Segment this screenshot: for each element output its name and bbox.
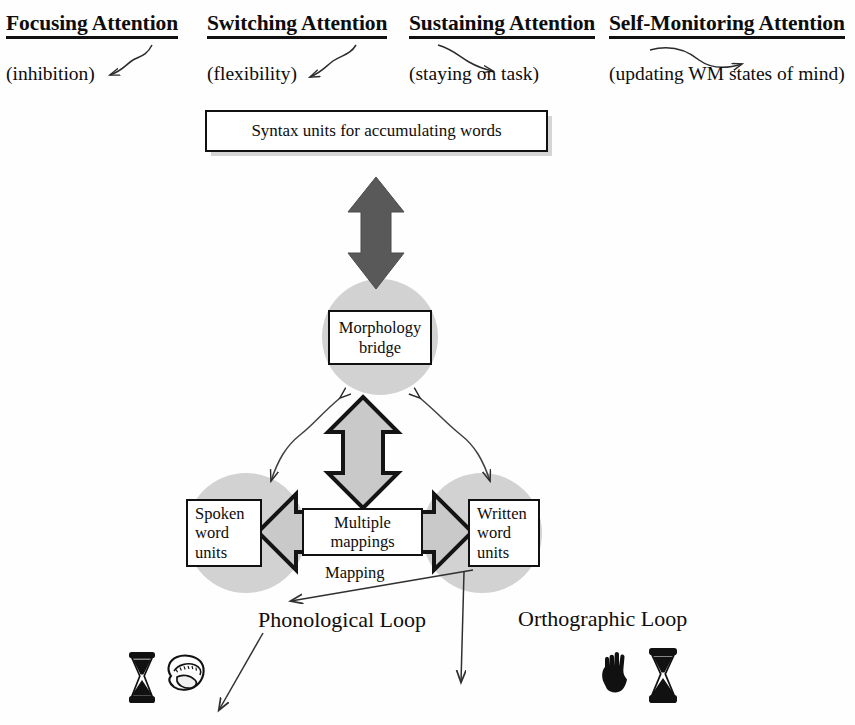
- multiple-mappings-label-line2: mappings: [330, 532, 394, 551]
- attention-subtitle-switching: (flexibility): [207, 64, 387, 84]
- attention-column-self-monitoring: Self-Monitoring Attention (updating WM s…: [609, 12, 845, 84]
- attention-subtitle-focusing: (inhibition): [6, 64, 178, 84]
- written-word-units-label-line2: word: [477, 523, 527, 542]
- spoken-word-units-label-line1: Spoken: [195, 504, 245, 523]
- attention-title-self-monitoring: Self-Monitoring Attention: [609, 12, 845, 39]
- diagram-canvas: Focusing Attention (inhibition) Switchin…: [0, 0, 855, 725]
- written-word-units-label-line3: units: [477, 543, 527, 562]
- morphology-bridge-box: Morphology bridge: [328, 310, 432, 365]
- syntax-units-label: Syntax units for accumulating words: [251, 121, 501, 141]
- written-word-units-box: Written word units: [468, 499, 540, 567]
- orthographic-loop-label: Orthographic Loop: [518, 606, 687, 632]
- attention-subtitle-self-monitoring: (updating WM states of mind): [609, 64, 845, 84]
- attention-subtitle-sustaining: (staying on task): [409, 64, 595, 84]
- morphology-mappings-double-arrow: [328, 397, 398, 508]
- multiple-mappings-box: Multiple mappings: [302, 508, 423, 556]
- attention-title-sustaining: Sustaining Attention: [409, 12, 595, 39]
- spoken-word-units-label-line3: units: [195, 543, 245, 562]
- morphology-bridge-label-line2: bridge: [339, 338, 422, 357]
- syntax-units-box: Syntax units for accumulating words: [205, 110, 548, 152]
- hourglass-icon-left: [129, 652, 155, 703]
- mapping-caption: Mapping: [325, 563, 385, 583]
- attention-column-sustaining: Sustaining Attention (staying on task): [409, 12, 595, 84]
- attention-column-switching: Switching Attention (flexibility): [207, 12, 387, 84]
- hand-icon: [602, 652, 627, 692]
- mouth-icon: [169, 656, 204, 690]
- phonological-loop-label: Phonological Loop: [258, 607, 426, 633]
- attention-column-focusing: Focusing Attention (inhibition): [6, 12, 178, 84]
- morphology-written-curve: [420, 398, 490, 481]
- multiple-mappings-label-line1: Multiple: [330, 513, 394, 532]
- mappings-written-hollow-arrow: [418, 494, 472, 570]
- attention-title-focusing: Focusing Attention: [6, 12, 178, 39]
- hourglass-icon-right: [649, 648, 677, 703]
- spoken-word-units-label-line2: word: [195, 523, 245, 542]
- attention-title-switching: Switching Attention: [207, 12, 387, 39]
- spoken-word-units-box: Spoken word units: [186, 499, 262, 567]
- phonological-loop-down-left-arrow: [219, 633, 263, 710]
- morphology-spoken-curve: [271, 398, 340, 481]
- written-down-arrow: [461, 572, 464, 682]
- morphology-bridge-label-line1: Morphology: [339, 318, 422, 337]
- syntax-morphology-double-arrow: [348, 177, 404, 289]
- written-word-units-label-line1: Written: [477, 504, 527, 523]
